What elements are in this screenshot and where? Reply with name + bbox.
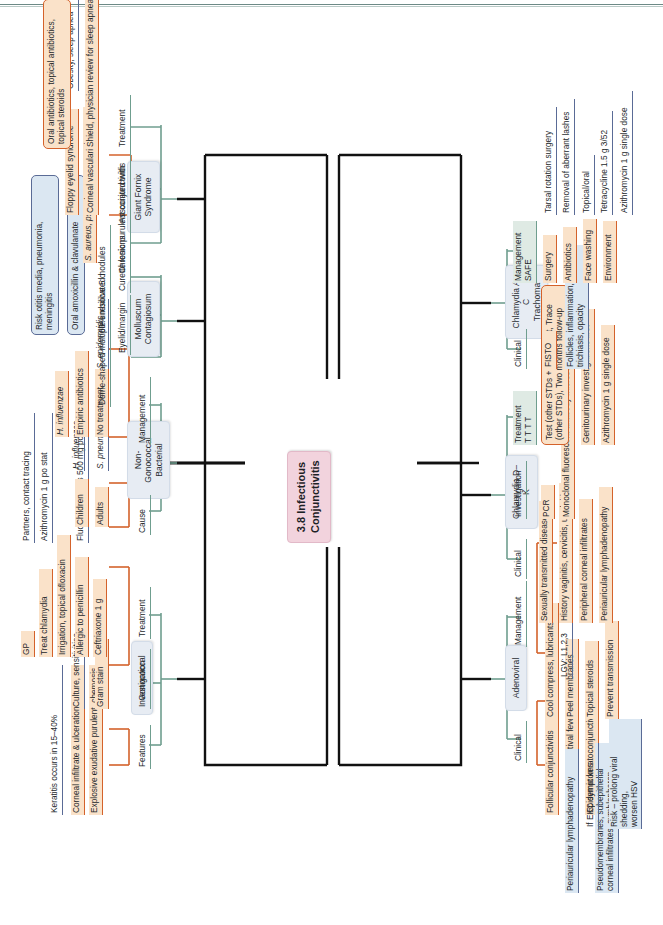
gonococcal-treatment-label[interactable]: Treatment xyxy=(137,587,151,639)
trachoma-mgmt-environment[interactable]: Environment xyxy=(603,221,617,283)
chlamydia-dk-clinical-std[interactable]: Sexually transmitted disease xyxy=(539,501,553,623)
trachoma-abx-azithromycin[interactable]: Azithromycin 1 g single dose xyxy=(619,91,633,215)
chlamydia-dk-pcr[interactable]: PCR xyxy=(541,485,555,519)
mindmap-page: 3.8 Infectious Conjunctivitis Gonococcal… xyxy=(0,0,663,925)
gonococcal-azithromycin[interactable]: Azithromycin 1 g po stat xyxy=(39,413,53,543)
nongonococcal-management-h-influenzae[interactable]: H. influenzae xyxy=(55,371,69,437)
molluscum-eyelid-margin[interactable]: Eyelid/margin xyxy=(117,295,131,355)
root-node[interactable]: 3.8 Infectious Conjunctivitis xyxy=(287,451,331,543)
category-giant-fornix[interactable]: Giant Fornix Syndrome xyxy=(127,161,160,233)
gonococcal-treatment-ceftriaxone[interactable]: Ceftriaxone 1 g xyxy=(93,579,107,657)
adenoviral-clinical-label[interactable]: Clinical xyxy=(513,721,527,763)
chlamydia-dk-azithromycin[interactable]: Azithromycin 1 g single dose xyxy=(601,325,615,445)
adenoviral-if-ekc-symptoms[interactable]: If EKC symptoms xyxy=(585,743,599,829)
molluscum-nodules[interactable]: Dome-shaped multiple umbilicated nodules xyxy=(97,225,111,407)
mindmap-rotated-canvas: 3.8 Infectious Conjunctivitis Gonococcal… xyxy=(9,10,654,915)
trachoma-mgmt-surgery[interactable]: Surgery xyxy=(543,235,557,283)
adenoviral-management-label[interactable]: Management xyxy=(513,581,527,647)
gonococcal-treatment-chlamydia[interactable]: Treat chlamydia xyxy=(39,569,53,657)
gonococcal-treatment-irrigation[interactable]: Irrigation, topical ofloxacin xyxy=(57,535,71,657)
trachoma-mgmt-antibiotics[interactable]: Antibiotics xyxy=(563,227,577,283)
gonococcal-investigation-label[interactable]: Investigation xyxy=(137,649,151,709)
gonococcal-treatment-gp[interactable]: GP xyxy=(21,631,35,657)
nongonococcal-management-empiric[interactable]: Empiric antibiotics xyxy=(75,351,89,437)
trachoma-surgery-tarsal[interactable]: Tarsal rotation surgery xyxy=(543,107,557,215)
page-top-rule-shadow xyxy=(0,6,663,7)
nongonococcal-cause-adults[interactable]: Adults xyxy=(95,487,109,527)
chlamydia-dk-clinical-infiltrates[interactable]: Peripheral corneal infiltrates xyxy=(579,499,593,623)
gonococcal-treatment-allergic[interactable]: Allergic to penicillin xyxy=(75,557,89,657)
page-top-rule xyxy=(0,4,663,5)
adenoviral-clinical-follicular[interactable]: Follicular conjunctivitis xyxy=(545,703,559,815)
gonococcal-keratitis-rate[interactable]: Keratitis occurs in 15–40% xyxy=(49,665,63,815)
adenoviral-risk-hsv[interactable]: Risk – prolong viral shedding, worsen HS… xyxy=(609,719,642,829)
mindmap-canvas: 3.8 Infectious Conjunctivitis Gonococcal… xyxy=(9,10,654,915)
chlamydia-dk-investigation-label[interactable]: Investigation xyxy=(513,461,527,519)
nongonococcal-risk-complications[interactable]: Risk otitis media, pneumonia, meningitis xyxy=(31,175,59,335)
nongonococcal-cause-children[interactable]: Children xyxy=(75,479,89,527)
nongonococcal-management-label[interactable]: Management xyxy=(137,377,151,445)
nongonococcal-cause-label[interactable]: Cause xyxy=(137,495,151,535)
adenoviral-periauricular[interactable]: Periauricular lymphadenopathy xyxy=(565,749,579,893)
chlamydia-dk-lgv[interactable]: LGV: L1,2,3 xyxy=(559,623,573,679)
chlamydia-dk-clinical-lymphadenopathy[interactable]: Periauricular lymphadenopathy xyxy=(599,487,613,623)
category-molluscum[interactable]: Molluscum Contagiosum xyxy=(127,281,160,357)
gonococcal-partners-contact[interactable]: Partners, contact tracing xyxy=(21,413,35,543)
adenoviral-mgmt-prevent-transmission[interactable]: Prevent transmission xyxy=(605,621,619,719)
giant-fornix-treatment-antibiotics[interactable]: Oral antibiotics, topical antibiotics, t… xyxy=(43,0,71,149)
giant-fornix-associated-label[interactable]: Associated with xyxy=(117,149,131,225)
giant-fornix-treatment-shield[interactable]: Shield, physician review for sleep apnea xyxy=(85,0,99,149)
trachoma-management-label[interactable]: Management SAFE xyxy=(513,221,537,283)
trachoma-surgery-lashes[interactable]: Removal of aberrant lashes xyxy=(561,99,575,215)
trachoma-clinical-label[interactable]: Clinical xyxy=(513,329,527,369)
gonococcal-features-label[interactable]: Features xyxy=(137,725,151,769)
giant-fornix-treatment-label[interactable]: Treatment xyxy=(117,95,131,149)
chlamydia-dk-treatment-label[interactable]: Treatment T T T T xyxy=(513,391,537,445)
trachoma-fisto[interactable]: FISTO xyxy=(543,331,557,369)
trachoma-abx-topical-oral[interactable]: Topical/oral xyxy=(581,155,595,215)
trachoma-abx-tetracycline[interactable]: Tetracycline 1.5 g 3/52 xyxy=(599,111,613,215)
adenoviral-mgmt-topical-steroids[interactable]: Topical steroids xyxy=(585,641,599,719)
trachoma-mgmt-face-washing[interactable]: Face washing xyxy=(583,219,597,283)
chlamydia-dk-clinical-label[interactable]: Clinical xyxy=(513,539,527,579)
category-adenoviral[interactable]: Adenoviral xyxy=(505,645,527,711)
